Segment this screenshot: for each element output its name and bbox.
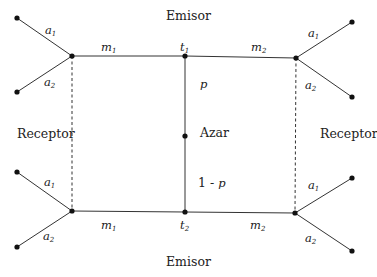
edge-tr-a1: [296, 22, 352, 58]
label-tr-a2: a2: [305, 78, 317, 93]
label-top-m1: m1: [101, 40, 116, 55]
label-bl-a2: a2: [43, 229, 55, 244]
label-p: p: [200, 77, 208, 91]
label-bottom-m1: m1: [101, 218, 116, 233]
label-tl-a1: a1: [45, 23, 56, 38]
leaf-tl-a2: [14, 89, 19, 94]
edge-bottom-m1: [72, 211, 185, 212]
label-bottom-m2: m2: [250, 218, 266, 233]
node-top-left-hub: [69, 53, 74, 58]
leaf-bl-a2: [14, 244, 19, 249]
edge-top-m2: [185, 56, 296, 58]
node-azar: [182, 133, 187, 138]
leaf-bl-a1: [14, 169, 19, 174]
node-bottom-right-hub: [292, 210, 297, 215]
leaf-br-a1: [349, 175, 354, 180]
leaf-tr-a2: [349, 94, 354, 99]
one-minus-p-var: p: [218, 176, 226, 190]
edge-br-a1: [295, 178, 352, 213]
leaf-tr-a1: [349, 19, 354, 24]
edge-br-a2: [295, 213, 352, 251]
label-tr-a1: a1: [308, 26, 319, 41]
label-tl-a2: a2: [44, 75, 56, 90]
label-receptor-left: Receptor: [17, 126, 75, 141]
node-bottom-left-hub: [69, 208, 74, 213]
edge-bottom-m2: [185, 212, 295, 213]
label-br-a2: a2: [305, 231, 317, 246]
leaf-br-a2: [349, 248, 354, 253]
label-br-a1: a1: [308, 178, 319, 193]
node-top-right-hub: [293, 55, 298, 60]
label-top-m2: m2: [251, 40, 267, 55]
label-t1: t1: [180, 40, 189, 55]
node-t2: [182, 209, 187, 214]
label-emisor-top: Emisor: [166, 8, 211, 23]
label-one-minus-p: 1 - p: [198, 175, 226, 190]
label-azar: Azar: [199, 125, 229, 140]
leaf-tl-a1: [14, 15, 19, 20]
label-emisor-bottom: Emisor: [166, 254, 211, 269]
label-receptor-right: Receptor: [320, 126, 377, 141]
game-tree-diagram: Emisor Emisor Receptor Receptor Azar p 1…: [0, 0, 377, 277]
label-bl-a1: a1: [44, 175, 55, 190]
info-set-right-dashed: [295, 58, 296, 213]
one-minus-p-prefix: 1 -: [198, 175, 218, 190]
label-t2: t2: [180, 218, 190, 233]
